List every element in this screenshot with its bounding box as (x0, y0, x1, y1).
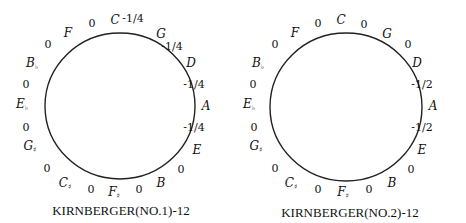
accidental-glyph: ♭ (261, 63, 264, 71)
temperament-diagram-1: CGDAEBF♯C♯G♯E♭B♭F-1/4-1/4-1/4-1/40000000… (15, 12, 211, 218)
note-label: B (387, 176, 397, 190)
comma-offset-value: 0 (272, 162, 279, 175)
note-label: E (417, 143, 427, 157)
accidental-glyph: ♯ (259, 146, 262, 154)
note-label: C♯ (59, 176, 72, 191)
note-label: G♯ (250, 139, 263, 154)
diagram-caption: KIRNBERGER(NO.1)-12 (52, 203, 190, 218)
comma-offset-value: 0 (366, 183, 373, 196)
note-label: C♯ (285, 176, 298, 191)
accidental-glyph: ♯ (345, 192, 348, 200)
note-label: B (156, 176, 166, 190)
comma-offset-value: 0 (315, 183, 322, 196)
comma-offset-value: 0 (23, 121, 30, 134)
note-label: E♭ (15, 97, 28, 112)
note-label: F♯ (107, 185, 120, 200)
comma-offset-value: 0 (88, 183, 95, 196)
note-label: F♯ (336, 185, 349, 200)
comma-offset-value: 0 (251, 121, 258, 134)
circle-of-fifths (270, 33, 422, 181)
note-label: F (290, 26, 300, 40)
comma-offset-value: 0 (250, 78, 257, 91)
kirnberger-temperament-diagrams: CGDAEBF♯C♯G♯E♭B♭F-1/4-1/4-1/4-1/40000000… (0, 0, 466, 223)
comma-offset-value: -1/4 (183, 78, 204, 91)
note-label: D (185, 56, 196, 70)
comma-offset-value: 0 (405, 38, 412, 51)
comma-offset-value: -1/4 (122, 12, 143, 25)
note-label: E (192, 143, 202, 157)
note-label: B♭ (251, 56, 264, 71)
comma-offset-value: 0 (89, 17, 96, 30)
note-label: E♭ (242, 97, 255, 112)
accidental-glyph: ♯ (68, 183, 71, 191)
note-label: F (63, 26, 73, 40)
comma-offset-value: 0 (178, 163, 185, 176)
comma-offset-value: 0 (361, 18, 368, 31)
note-label: B♭ (25, 56, 38, 71)
note-label: G (382, 27, 392, 41)
comma-offset-value: 0 (136, 183, 143, 196)
comma-offset-value: 0 (272, 38, 279, 51)
note-label: G (156, 27, 166, 41)
accidental-glyph: ♭ (25, 104, 28, 112)
note-label: D (411, 56, 422, 70)
note-label: A (428, 99, 438, 113)
circle-of-fifths (45, 33, 195, 179)
diagram-caption: KIRNBERGER(NO.2)-12 (281, 205, 419, 220)
accidental-glyph: ♯ (33, 146, 36, 154)
temperament-diagram-2: CGDAEBF♯C♯G♯E♭B♭F00-1/2-1/200000000KIRNB… (242, 13, 438, 220)
comma-offset-value: 0 (44, 162, 51, 175)
comma-offset-value: -1/2 (411, 78, 432, 91)
comma-offset-value: -1/2 (411, 121, 432, 134)
comma-offset-value: 0 (23, 78, 30, 91)
comma-offset-value: 0 (408, 163, 415, 176)
accidental-glyph: ♯ (116, 192, 119, 200)
note-label: A (201, 99, 211, 113)
comma-offset-value: 0 (45, 38, 52, 51)
accidental-glyph: ♭ (35, 63, 38, 71)
note-label: C (110, 13, 119, 27)
accidental-glyph: ♭ (252, 104, 255, 112)
comma-offset-value: 0 (315, 17, 322, 30)
note-label: C (336, 13, 345, 27)
comma-offset-value: -1/4 (161, 40, 182, 53)
diagram-canvas: CGDAEBF♯C♯G♯E♭B♭F-1/4-1/4-1/4-1/40000000… (0, 0, 466, 223)
comma-offset-value: -1/4 (183, 121, 204, 134)
note-label: G♯ (24, 139, 37, 154)
accidental-glyph: ♯ (294, 183, 297, 191)
